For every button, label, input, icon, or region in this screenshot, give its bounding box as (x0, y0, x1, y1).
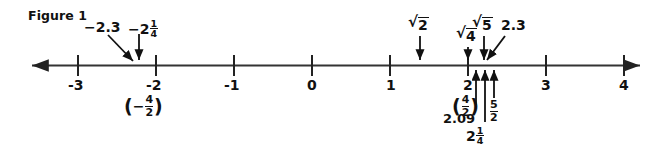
label-neg-2-point-3: −2.3 (84, 20, 121, 34)
fraction-numerator: 5 (490, 99, 498, 111)
mixed-whole: 2 (466, 129, 476, 143)
mixed-whole: −2 (128, 22, 149, 36)
mixed-fraction: 1 4 (150, 19, 158, 39)
radicand: 2 (418, 17, 429, 33)
paren-close: ) (154, 98, 163, 114)
label-neg-four-halves: ( − 4 2 ) (124, 94, 163, 118)
tick-label-4: 4 (619, 78, 629, 92)
radical-sign: √ (472, 15, 482, 30)
tick-label-3: 3 (541, 78, 551, 92)
fraction-denominator: 4 (476, 135, 484, 146)
label-five-halves: 5 2 (490, 99, 498, 124)
radical-sign: √ (456, 26, 466, 41)
radical-sign: √ (408, 15, 418, 30)
fraction: 4 2 (145, 94, 153, 118)
tick-label-0: 0 (307, 78, 317, 92)
fraction-numerator: 4 (462, 94, 470, 106)
tick-label-neg-1: -1 (224, 78, 240, 92)
tick-label-neg-2: -2 (146, 78, 162, 92)
fraction-sign: − (133, 99, 145, 113)
label-two-point-zero-nine: 2.09 (443, 112, 475, 125)
mixed-fraction: 1 4 (476, 126, 484, 146)
fraction-denominator: 2 (490, 111, 498, 124)
label-two-point-three: 2.3 (501, 18, 526, 32)
radicand: 5 (482, 17, 493, 33)
label-sqrt-2: √ 2 (408, 15, 429, 32)
fraction-denominator: 2 (145, 106, 153, 119)
number-line-figure: Figure 1 -3 -2 -1 0 1 2 3 4 −2.3 −2 1 4 … (0, 0, 651, 147)
figure-title: Figure 1 (28, 10, 87, 23)
fraction-denominator: 4 (150, 28, 158, 39)
pointer-two-point-three (487, 36, 505, 60)
label-neg-2-and-one-quarter: −2 1 4 (128, 19, 158, 39)
label-sqrt-5: √ 5 (472, 15, 493, 32)
fraction-numerator: 1 (150, 19, 158, 29)
paren-open: ( (124, 98, 133, 114)
tick-label-2: 2 (463, 78, 473, 92)
fraction-numerator: 1 (476, 126, 484, 136)
fraction-numerator: 4 (145, 94, 153, 106)
tick-label-1: 1 (386, 78, 396, 92)
label-two-and-one-quarter: 2 1 4 (466, 126, 484, 146)
tick-label-neg-3: -3 (68, 78, 84, 92)
